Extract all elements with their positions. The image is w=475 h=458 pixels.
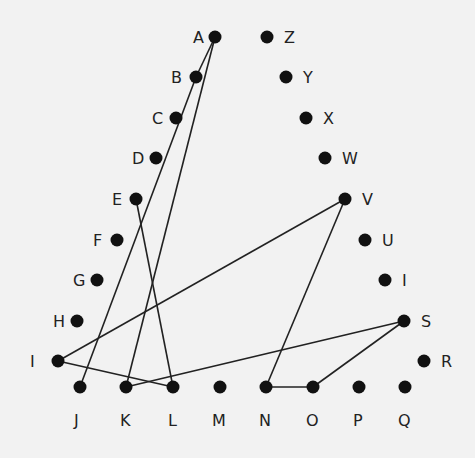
dot-I2 [379,274,392,287]
dot-Y [280,71,293,84]
label-R: R [441,352,452,371]
label-I: I [30,352,35,371]
label-Q: Q [398,411,411,430]
label-N: N [259,411,271,430]
label-V: V [362,190,373,209]
label-F: F [93,231,102,250]
label-J: J [73,411,79,430]
label-D: D [132,149,144,168]
label-W: W [342,149,358,168]
edge-N-V [266,199,345,387]
dot-V [339,193,352,206]
label-G: G [73,271,85,290]
dot-C [170,112,183,125]
label-U: U [382,231,394,250]
dot-W [319,152,332,165]
dot-J [74,381,87,394]
dot-E [130,193,143,206]
dot-S [398,315,411,328]
label-M: M [212,411,226,430]
edge-K-S [126,321,404,387]
label-C: C [152,109,163,128]
dot-P [353,381,366,394]
label-E: E [112,190,122,209]
label-P: P [353,411,363,430]
dot-L [167,381,180,394]
dot-K [120,381,133,394]
label-Y: Y [302,68,313,87]
label-O: O [306,411,319,430]
dot-X [300,112,313,125]
label-B: B [171,68,182,87]
label-A: A [193,28,204,47]
dot-U [359,234,372,247]
label-K: K [120,411,131,430]
dot-F [111,234,124,247]
dot-Z [261,31,274,44]
label-X: X [323,109,334,128]
label-I2: I [402,271,407,290]
dot-H [71,315,84,328]
dot-M [214,381,227,394]
dot-G [91,274,104,287]
label-Z: Z [284,28,295,47]
dot-O [307,381,320,394]
dot-N [260,381,273,394]
dot-R [418,355,431,368]
dot-A [209,31,222,44]
dot-Q [399,381,412,394]
edge-S-O [313,321,404,387]
letter-dot-diagram: ABCDEFGHIJKLMNOPQRSIUVWXYZ [0,0,475,458]
edges [58,37,404,387]
label-L: L [168,411,177,430]
dot-B [190,71,203,84]
label-H: H [53,312,65,331]
dot-D [150,152,163,165]
dot-I [52,355,65,368]
label-S: S [421,312,431,331]
